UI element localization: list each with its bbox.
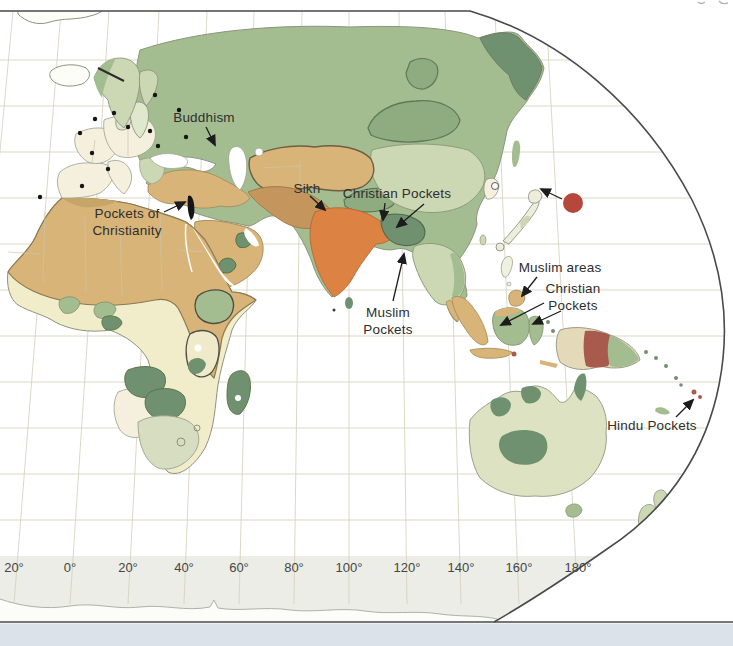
solomons-1 [644,350,648,354]
moluccas-2 [551,329,555,333]
solomons-2 [654,356,658,360]
moluccas-1 [546,320,550,324]
aral-sea [255,148,263,156]
annotation-muslim-areas: Muslim areas [519,259,602,276]
sri-lanka [345,297,353,309]
annotation-hindu-pockets: Hindu Pockets [607,417,697,434]
longitude-tick-120e: 120° [394,560,421,575]
annotation-line: Pockets [545,297,600,314]
mindanao-muslim-area [509,290,525,306]
annotation-line: Pockets of [92,205,161,222]
bali-hindu-pocket [512,352,517,357]
lake-victoria [195,345,202,352]
longitude-tick-20w: 20° [4,560,24,575]
top-margin [0,0,733,11]
vanuatu-2 [679,383,683,387]
annotation-christian-pockets: Christian Pockets [343,185,451,202]
annotation-muslim-pockets: Muslim Pockets [363,304,412,338]
korea-circle-symbol [492,183,499,190]
fiji-hindu-pocket-1 [692,390,697,395]
longitude-tick-160e: 160° [506,560,533,575]
longitude-tick-180: 180° [565,560,592,575]
philippines-visayas [507,282,511,286]
annotation-line: Muslim [363,304,412,321]
longitude-tick-60e: 60° [229,560,249,575]
religion-map-figure: Buddhism Sikh Christian Pockets Pockets … [0,0,733,646]
vanuatu-1 [674,376,678,380]
longitude-tick-0: 0° [64,560,76,575]
shinto-circle-symbol [563,193,583,213]
annotation-sikh: Sikh [293,180,320,197]
madagascar-pocket [235,395,241,401]
bottom-strip [0,624,733,646]
solomons-3 [664,364,668,368]
annotation-christian-pockets-indonesia: Christian Pockets [545,280,600,314]
japan-kyushu [496,243,504,251]
annotation-line: Pockets [363,321,412,338]
longitude-tick-140e: 140° [448,560,475,575]
longitude-tick-20e: 20° [118,560,138,575]
annotation-pockets-of-christianity: Pockets of Christianity [92,205,161,239]
maldives-dot [333,309,336,312]
fiji-hindu-pocket-2 [698,395,702,399]
longitude-tick-100e: 100° [336,560,363,575]
longitude-tick-80e: 80° [284,560,304,575]
annotation-buddhism: Buddhism [173,109,235,126]
zimbabwe-pocket [145,389,185,420]
iceland [50,65,90,86]
taiwan [480,235,486,245]
annotation-line: Christian [545,280,600,297]
annotation-line: Christianity [92,222,161,239]
longitude-tick-40e: 40° [174,560,194,575]
ethiopia-region [195,290,233,324]
